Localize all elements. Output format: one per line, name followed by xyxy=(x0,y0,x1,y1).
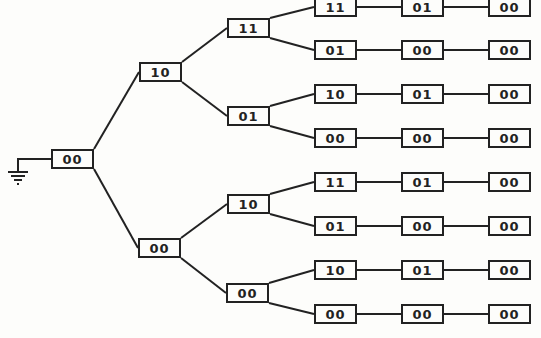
level2-node: 01 xyxy=(227,106,270,126)
root-node: 00 xyxy=(51,149,94,169)
level1-node: 00 xyxy=(138,238,181,258)
row-node: 01 xyxy=(314,216,357,236)
row-node: 00 xyxy=(488,172,531,192)
connection-wires xyxy=(0,0,541,338)
row-node: 01 xyxy=(401,84,444,104)
row-node: 00 xyxy=(488,40,531,60)
row-node: 01 xyxy=(401,172,444,192)
row-node: 00 xyxy=(314,128,357,148)
level2-node: 11 xyxy=(227,18,270,38)
row-node: 11 xyxy=(314,0,357,17)
row-node: 00 xyxy=(488,304,531,324)
row-node: 00 xyxy=(488,260,531,280)
ground-icon xyxy=(8,170,28,186)
level2-node: 10 xyxy=(227,194,270,214)
row-node: 10 xyxy=(314,260,357,280)
row-node: 00 xyxy=(401,216,444,236)
row-node: 00 xyxy=(488,0,531,17)
row-node: 01 xyxy=(401,260,444,280)
level1-node: 10 xyxy=(139,62,182,82)
row-node: 00 xyxy=(314,304,357,324)
row-node: 00 xyxy=(401,40,444,60)
row-node: 00 xyxy=(401,304,444,324)
row-node: 00 xyxy=(488,84,531,104)
row-node: 01 xyxy=(314,40,357,60)
row-node: 00 xyxy=(488,216,531,236)
row-node: 00 xyxy=(488,128,531,148)
row-node: 11 xyxy=(314,172,357,192)
row-node: 01 xyxy=(401,0,444,17)
row-node: 10 xyxy=(314,84,357,104)
row-node: 00 xyxy=(401,128,444,148)
level2-node: 00 xyxy=(226,283,269,303)
